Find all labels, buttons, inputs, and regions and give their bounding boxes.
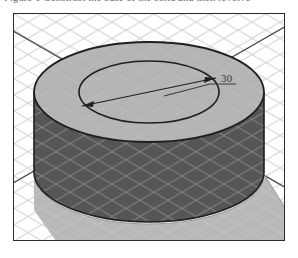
isometric-drawing-canvas [14,14,284,240]
page-caption-strip: Figure 1 Construct the base of the solid… [0,0,298,9]
dimension-value-label: 30 [221,73,233,84]
page-caption-text: Figure 1 Construct the base of the solid… [4,0,251,3]
figure-frame [13,13,285,241]
